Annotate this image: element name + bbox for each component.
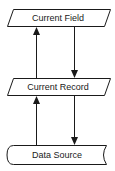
current-field-label: Current Field: [32, 13, 84, 23]
edge-source-to-record: [33, 96, 40, 145]
arrow-down-icon: [71, 70, 78, 78]
arrow-down-icon: [71, 137, 78, 145]
data-source-label: Data Source: [32, 150, 82, 160]
data-flow-diagram: Current Field Current Record Data Source: [0, 0, 115, 171]
node-current-field: Current Field: [8, 10, 111, 27]
edge-field-to-record: [71, 27, 78, 78]
node-data-source: Data Source: [7, 146, 107, 165]
current-record-label: Current Record: [27, 82, 89, 92]
arrow-up-icon: [33, 27, 40, 35]
edge-record-to-source: [71, 96, 78, 145]
arrow-up-icon: [33, 96, 40, 104]
node-current-record: Current Record: [8, 79, 111, 96]
edge-record-to-field: [33, 27, 40, 78]
